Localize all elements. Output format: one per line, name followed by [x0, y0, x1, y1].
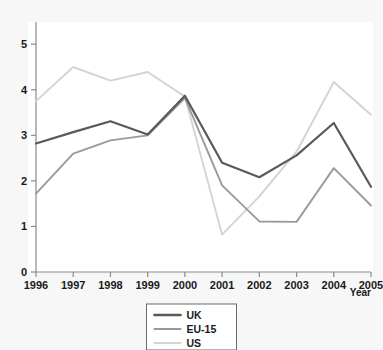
x-axis-title: Year — [350, 287, 371, 298]
y-tick-label: 3 — [21, 129, 27, 141]
y-tick-label: 2 — [21, 175, 27, 187]
legend-label-us: US — [187, 337, 202, 349]
legend-label-uk: UK — [187, 309, 203, 321]
x-tick-label: 1997 — [61, 279, 85, 291]
x-tick-label: 2000 — [173, 279, 197, 291]
y-tick-label: 5 — [21, 38, 27, 50]
x-tick-label: 1998 — [98, 279, 122, 291]
legend-label-eu-15: EU-15 — [187, 323, 217, 335]
y-tick-label: 1 — [21, 220, 27, 232]
x-tick-label: 2003 — [284, 279, 308, 291]
y-tick-label: 0 — [21, 266, 27, 278]
x-tick-label: 1999 — [135, 279, 159, 291]
chart-legend: UKEU-15US — [147, 304, 237, 350]
x-tick-label: 2002 — [247, 279, 271, 291]
x-tick-label: 2001 — [210, 279, 234, 291]
plot-area-background — [28, 22, 373, 272]
chart-canvas: 012345 199619971998199920002001200220032… — [0, 0, 383, 350]
y-tick-label: 4 — [21, 84, 28, 96]
line-chart: 012345 199619971998199920002001200220032… — [0, 0, 383, 350]
x-tick-label: 2004 — [322, 279, 347, 291]
x-tick-label: 1996 — [24, 279, 48, 291]
